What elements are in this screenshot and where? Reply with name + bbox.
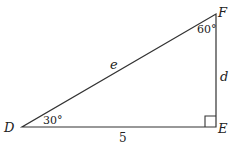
vertex-label-e: E <box>217 121 228 136</box>
side-label-e: e <box>110 57 118 72</box>
triangle-diagram: F D E 60° 30° e d 5 <box>0 0 238 147</box>
side-label-5: 5 <box>119 131 127 145</box>
vertex-label-f: F <box>217 5 228 20</box>
angle-label-f: 60° <box>197 23 217 36</box>
triangle-def <box>22 14 216 127</box>
angle-label-d: 30° <box>43 114 63 127</box>
right-angle-marker <box>205 116 216 127</box>
vertex-label-d: D <box>3 120 15 135</box>
side-label-d: d <box>220 69 228 84</box>
